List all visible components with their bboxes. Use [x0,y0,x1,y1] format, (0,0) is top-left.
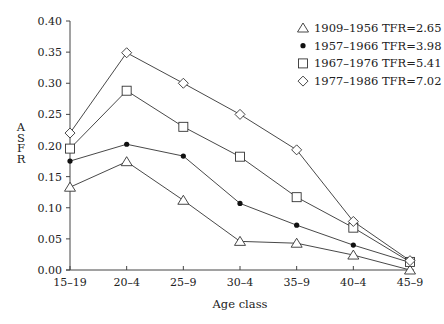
x-tick-label: 35–9 [283,276,310,289]
dot-marker [181,153,186,158]
series-1 [65,157,416,274]
legend-item: 1909–1956 TFR=2.65 [298,21,442,35]
legend: 1909–1956 TFR=2.651957–1966 TFR=3.981967… [298,21,442,88]
square-marker [299,59,308,68]
square-marker [292,193,301,202]
y-axis-title: ASFR [16,120,26,166]
diamond-marker [178,78,188,88]
y-tick-label: 0.05 [38,233,63,246]
dot-marker [237,201,242,206]
asfr-line-chart: 0.000.050.100.150.200.250.300.350.4015–1… [0,0,444,324]
chart-canvas: 0.000.050.100.150.200.250.300.350.4015–1… [0,0,444,324]
triangle-marker [121,157,132,166]
square-marker [122,86,131,95]
y-tick-label: 0.10 [38,202,63,215]
diamond-marker [65,128,75,138]
y-tick-label: 0.15 [38,171,63,184]
x-tick-label: 45–9 [397,276,424,289]
legend-label: 1957–1966 TFR=3.98 [314,39,442,53]
dot-marker [294,223,299,228]
square-marker [66,144,75,153]
dot-marker [124,142,129,147]
x-tick-label: 25–9 [170,276,197,289]
y-tick-label: 0.25 [38,108,63,121]
legend-label: 1977–1986 TFR=7.02 [314,74,442,88]
legend-item: 1957–1966 TFR=3.98 [300,39,441,53]
square-marker [179,122,188,131]
y-tick-label: 0.35 [38,46,63,59]
x-axis-title: Age class [212,297,268,311]
series-line [70,162,410,270]
dot-marker [351,243,356,248]
diamond-marker [292,145,302,155]
triangle-marker [235,236,246,245]
x-tick-label: 20–4 [113,276,140,289]
x-tick-label: 15–19 [53,276,87,289]
y-tick-label: 0.20 [38,140,63,153]
legend-label: 1909–1956 TFR=2.65 [314,21,442,35]
legend-item: 1977–1986 TFR=7.02 [298,74,442,88]
triangle-marker [298,23,309,32]
y-tick-label: 0.30 [38,77,63,90]
legend-item: 1967–1976 TFR=5.41 [299,56,442,70]
legend-label: 1967–1976 TFR=5.41 [314,56,442,70]
y-tick-label: 0.40 [38,15,63,28]
triangle-marker [178,195,189,204]
square-marker [236,152,245,161]
diamond-marker [235,109,245,119]
dot-marker [67,158,72,163]
diamond-marker [298,76,308,86]
triangle-marker [65,182,76,191]
x-tick-label: 40–4 [340,276,367,289]
y-axis-title-letter: R [17,152,26,166]
dot-marker [300,43,305,48]
diamond-marker [122,48,132,58]
x-tick-label: 30–4 [227,276,254,289]
